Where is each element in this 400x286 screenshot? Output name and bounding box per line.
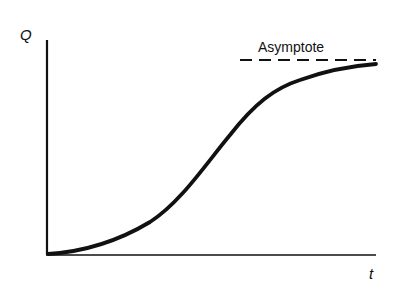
asymptote-label: Asymptote [258,39,324,55]
y-axis-label: Q [20,26,32,43]
x-axis-label: t [369,265,374,282]
logistic-chart: Q t Asymptote [0,0,400,286]
logistic-curve [48,64,376,254]
